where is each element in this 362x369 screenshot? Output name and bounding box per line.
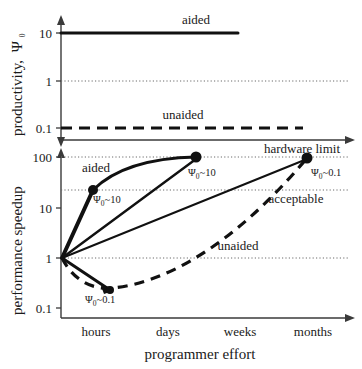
figure-root: productivity, Ψ 0 10 1 0.1 xyxy=(0,0,362,369)
bottom-annot-psi01-dip-tail: ~0.1 xyxy=(97,294,116,305)
bottom-y-axis-title: performance speedup xyxy=(9,186,25,315)
top-y-axis-title-text: productivity, xyxy=(9,60,25,136)
top-panel: productivity, Ψ 0 10 1 0.1 xyxy=(9,12,355,147)
bottom-marker-top-psi10 xyxy=(191,152,202,163)
bottom-annot-psi01-right-tail: ~0.1 xyxy=(323,167,342,178)
bottom-x-axis-title: programmer effort xyxy=(145,346,257,362)
bottom-xtick-weeks: weeks xyxy=(224,324,257,339)
bottom-x-axis-arrow xyxy=(345,314,355,322)
bottom-annot-psi10-top-tail: ~10 xyxy=(200,167,216,178)
top-series-unaided-label: unaided xyxy=(162,107,204,122)
bottom-ytick-label-1: 1 xyxy=(46,251,53,266)
bottom-ytick-label-10: 10 xyxy=(39,201,52,216)
top-ytick-label-10: 10 xyxy=(39,26,52,41)
top-y-axis-title: productivity, Ψ 0 xyxy=(9,33,27,136)
bottom-annot-psi10-knee-tail: ~10 xyxy=(105,194,121,205)
bottom-label-hardware-limit: hardware limit xyxy=(264,141,341,156)
bottom-marker-dip-psi01 xyxy=(106,286,114,294)
bottom-panel: performance speedup 100 10 1 0.1 xyxy=(9,141,355,362)
bottom-annot-psi10-knee: Ψ0~10 xyxy=(93,194,121,208)
bottom-series-unaided xyxy=(62,158,307,288)
top-ytick-label-1: 1 xyxy=(46,74,53,89)
bottom-ytick-label-100: 100 xyxy=(33,150,53,165)
top-series-aided-label: aided xyxy=(182,12,211,27)
bottom-label-unaided: unaided xyxy=(217,238,259,253)
top-ytick-label-0.1: 0.1 xyxy=(36,121,52,136)
bottom-annot-psi01-dip: Ψ0~0.1 xyxy=(85,294,115,308)
top-y-axis-lower-arrow xyxy=(57,137,65,147)
bottom-xtick-months: months xyxy=(294,324,332,339)
top-x-axis-arrow xyxy=(345,136,355,144)
bottom-label-acceptable: acceptable xyxy=(269,191,324,206)
two-panel-chart: productivity, Ψ 0 10 1 0.1 xyxy=(0,0,362,369)
top-y-axis-arrow xyxy=(57,15,65,25)
bottom-xtick-days: days xyxy=(156,324,180,339)
bottom-label-aided: aided xyxy=(82,160,111,175)
top-y-axis-symbol-sub: 0 xyxy=(18,33,27,37)
top-y-axis-symbol: Ψ xyxy=(9,40,25,52)
bottom-annot-psi01-right: Ψ0~0.1 xyxy=(311,167,341,181)
bottom-ytick-label-0.1: 0.1 xyxy=(36,301,52,316)
bottom-xtick-hours: hours xyxy=(82,324,111,339)
bottom-annot-psi10-top: Ψ0~10 xyxy=(188,167,216,181)
svg-text:productivity, Ψ: productivity, Ψ 0 xyxy=(9,33,27,136)
